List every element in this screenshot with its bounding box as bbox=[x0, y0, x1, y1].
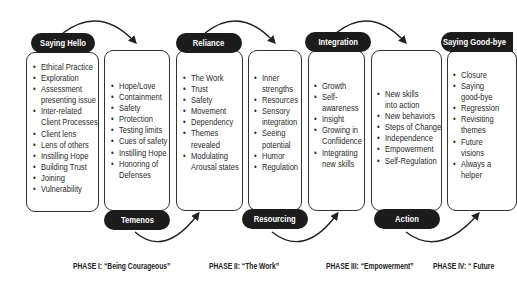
list-item: Inner bbox=[254, 73, 295, 84]
list-item: Movement bbox=[183, 106, 235, 117]
list-item: Growing in bbox=[314, 125, 358, 136]
list-item: Dependency bbox=[183, 117, 235, 128]
list-item: Lens of others bbox=[33, 140, 90, 151]
list-item: Revisiting bbox=[453, 114, 508, 125]
list-item: Self-Regulation bbox=[377, 156, 433, 167]
list-item: Humor bbox=[254, 151, 295, 162]
list-item-continuation: good-bye bbox=[453, 92, 508, 103]
list-item-continuation: helper bbox=[453, 170, 508, 181]
list-item: Assessment bbox=[33, 84, 90, 95]
list-item: Resources bbox=[254, 95, 295, 106]
list-item: New behaviors bbox=[377, 111, 433, 122]
stage-items-resourcing: Inner strengths Resources Sensory integr… bbox=[254, 73, 301, 173]
stage-items-temenos: Hope/Love Containment Safety Protection … bbox=[111, 81, 169, 181]
list-item: Empowerment bbox=[377, 144, 433, 155]
stage-label-resourcing: Resourcing bbox=[242, 209, 308, 229]
list-item-continuation: presenting issue bbox=[33, 95, 90, 106]
list-item: Cues of safety bbox=[111, 136, 162, 147]
list-item: Instilling Hope bbox=[33, 151, 90, 162]
list-item: Ethical Practice bbox=[33, 62, 90, 73]
stage-box-action: New skills into action New behaviors Ste… bbox=[371, 50, 442, 211]
list-item: Insight bbox=[314, 114, 358, 125]
list-item: Building Trust bbox=[33, 162, 90, 173]
list-item-continuation: new skills bbox=[314, 159, 358, 170]
stage-items-saying-goodbye: Closure Saying good-bye Regression Revis… bbox=[453, 70, 516, 181]
list-item: Instilling Hope bbox=[111, 148, 162, 159]
list-item: The Work bbox=[183, 73, 235, 84]
stage-box-resourcing: Inner strengths Resources Sensory integr… bbox=[248, 50, 302, 211]
list-item: Safety bbox=[183, 95, 235, 106]
list-item: Themes bbox=[183, 128, 235, 139]
list-item-continuation: themes bbox=[453, 125, 508, 136]
list-item: Containment bbox=[111, 92, 162, 103]
list-item: Growth bbox=[314, 81, 358, 92]
list-item: Closure bbox=[453, 70, 508, 81]
list-item: Sensory bbox=[254, 106, 295, 117]
list-item: Vulnerability bbox=[33, 184, 90, 195]
list-item-continuation: strengths bbox=[254, 84, 295, 95]
list-item-continuation: integration bbox=[254, 117, 295, 128]
list-item: Independence bbox=[377, 133, 433, 144]
list-item: Inter-related bbox=[33, 106, 90, 117]
list-item: Self- bbox=[314, 92, 358, 103]
stage-box-saying-hello: Ethical Practice Exploration Assessment … bbox=[26, 52, 99, 212]
list-item: Always a bbox=[453, 159, 508, 170]
list-item: Honoring of bbox=[111, 159, 162, 170]
list-item: Safety bbox=[111, 103, 162, 114]
list-item: Saying bbox=[453, 81, 508, 92]
list-item: Hope/Love bbox=[111, 81, 162, 92]
list-item-continuation: into action bbox=[377, 100, 433, 111]
phase-caption-3: PHASE III: “Empowerment” bbox=[326, 262, 414, 271]
stage-box-saying-goodbye: Closure Saying good-bye Regression Revis… bbox=[447, 50, 517, 211]
phase-caption-4: PHASE IV: “ Future bbox=[433, 262, 494, 271]
list-item: Exploration bbox=[33, 73, 90, 84]
stage-box-reliance: The Work Trust Safety Movement Dependenc… bbox=[176, 50, 243, 211]
stage-label-saying-hello: Saying Hello bbox=[31, 33, 95, 53]
stage-label-temenos: Temenos bbox=[104, 210, 170, 230]
list-item: Regulation bbox=[254, 162, 295, 173]
stage-items-action: New skills into action New behaviors Ste… bbox=[377, 89, 441, 167]
list-item-continuation: Confiidence bbox=[314, 136, 358, 147]
list-item: Future bbox=[453, 137, 508, 148]
stage-box-temenos: Hope/Love Containment Safety Protection … bbox=[104, 50, 170, 211]
list-item: Seeing bbox=[254, 128, 295, 139]
stage-label-integration: Integration bbox=[305, 32, 371, 52]
list-item-continuation: awareness bbox=[314, 103, 358, 114]
list-item-continuation: Defenses bbox=[111, 170, 162, 181]
list-item: Trust bbox=[183, 84, 235, 95]
stage-label-action: Action bbox=[374, 209, 440, 229]
list-item-continuation: visions bbox=[453, 148, 508, 159]
list-item: Testing limits bbox=[111, 125, 162, 136]
stage-items-reliance: The Work Trust Safety Movement Dependenc… bbox=[183, 73, 242, 173]
phase-caption-2: PHASE II: “The Work” bbox=[209, 262, 279, 271]
list-item-continuation: Client Processes bbox=[33, 117, 90, 128]
stage-items-integration: Growth Self- awareness Insight Growing i… bbox=[314, 81, 364, 170]
list-item-continuation: revealed bbox=[183, 140, 235, 151]
stage-box-integration: Growth Self- awareness Insight Growing i… bbox=[308, 50, 365, 211]
list-item: Modulating bbox=[183, 151, 235, 162]
stage-items-saying-hello: Ethical Practice Exploration Assessment … bbox=[33, 62, 98, 195]
list-item: New skills bbox=[377, 89, 433, 100]
list-item: Joining bbox=[33, 173, 90, 184]
list-item: Protection bbox=[111, 114, 162, 125]
list-item: Regression bbox=[453, 103, 508, 114]
list-item-continuation: potential bbox=[254, 140, 295, 151]
phase-caption-1: PHASE I: “Being Courageous” bbox=[73, 262, 170, 271]
list-item-continuation: Arousal states bbox=[183, 162, 235, 173]
list-item: Client lens bbox=[33, 129, 90, 140]
list-item: Steps of Change bbox=[377, 122, 433, 133]
stage-label-reliance: Reliance bbox=[176, 33, 242, 53]
list-item: Integrating bbox=[314, 148, 358, 159]
stage-label-saying-goodbye: Saying Good-bye bbox=[441, 32, 513, 52]
